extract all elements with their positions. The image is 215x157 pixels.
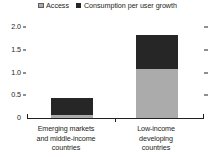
y-tick-mark-right-2.0 xyxy=(204,27,208,28)
y-tick-mark-left-1.0 xyxy=(23,72,27,73)
legend-entry-consumption: Consumption per user growth xyxy=(76,1,177,10)
x-axis-label-lowincome-line2: developing xyxy=(119,134,193,144)
y-tick-mark-right-0.5 xyxy=(204,95,208,96)
x-axis-label-low-income: Low-income developing countries xyxy=(119,124,193,153)
x-axis-label-emerging-line1: Emerging markets xyxy=(24,124,108,134)
bar-segment-consumption-lowincome xyxy=(136,35,178,69)
y-tick-mark-right-1.5 xyxy=(204,49,208,50)
y-tick-mark-left-0.5 xyxy=(23,95,27,96)
y-tick-mark-left-1.5 xyxy=(23,49,27,50)
y-tick-label-0.5: 0.5 xyxy=(3,92,21,99)
x-axis-label-emerging-markets: Emerging markets and middle-income count… xyxy=(24,124,108,153)
bar-segment-access-lowincome xyxy=(136,69,178,118)
x-axis-label-emerging-line3: countries xyxy=(24,143,108,153)
y-tick-label-1.5: 1.5 xyxy=(3,46,21,53)
y-axis: 2.0 1.5 1.0 0.5 0 xyxy=(0,0,21,157)
bar-low-income-developing[interactable] xyxy=(136,35,178,118)
y-tick-label-2.0: 2.0 xyxy=(3,23,21,30)
y-tick-label-0: 0 xyxy=(3,114,21,121)
y-tick-mark-right-1.0 xyxy=(204,72,208,73)
y-tick-label-1.0: 1.0 xyxy=(3,69,21,76)
bar-emerging-markets[interactable] xyxy=(51,98,93,119)
x-axis-cap-left xyxy=(27,114,28,119)
x-axis-label-lowincome-line1: Low-income xyxy=(119,124,193,134)
stacked-bar-chart: Access Consumption per user growth 2.0 1… xyxy=(0,0,215,157)
legend-label-consumption: Consumption per user growth xyxy=(84,1,177,10)
x-axis-label-lowincome-line3: countries xyxy=(119,143,193,153)
chart-legend: Access Consumption per user growth xyxy=(0,1,215,10)
x-axis-cap-right xyxy=(203,114,204,119)
plot-area xyxy=(27,27,204,118)
legend-entry-access: Access xyxy=(38,1,69,10)
legend-label-access: Access xyxy=(46,1,69,10)
x-axis-label-emerging-line2: and middle-income xyxy=(24,134,108,144)
x-tick-divider xyxy=(115,118,116,122)
legend-swatch-consumption-icon xyxy=(76,3,82,9)
bar-segment-consumption-emerging xyxy=(51,98,93,116)
y-tick-mark-left-2.0 xyxy=(23,27,27,28)
legend-swatch-access-icon xyxy=(38,3,44,9)
